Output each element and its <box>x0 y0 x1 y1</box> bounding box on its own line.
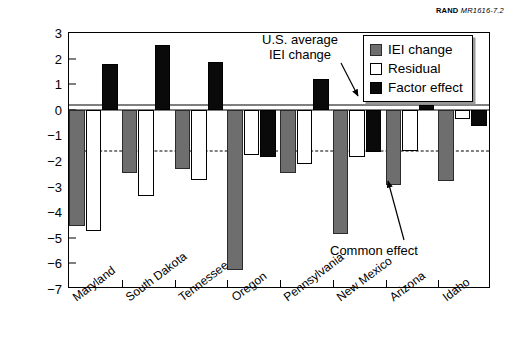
us-average-arrow <box>341 63 358 96</box>
annotation-arrows <box>0 0 516 364</box>
chart-figure: RAND MR1616-7.2 Annual percent change 32… <box>0 0 516 364</box>
common-effect-arrow <box>388 181 404 240</box>
